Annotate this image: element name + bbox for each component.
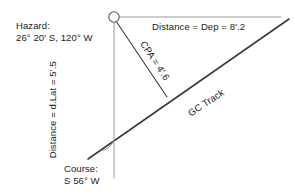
hazard-circle-marker: [109, 12, 119, 22]
hazard-position: 26° 20' S, 120° W: [16, 32, 93, 44]
course-label: Course: S 56° W: [64, 163, 100, 187]
hazard-label: Hazard: 26° 20' S, 120° W: [16, 20, 93, 44]
dlat-label: Distance = d.Lat = 5'.5: [47, 50, 59, 170]
navigation-diagram: Hazard: 26° 20' S, 120° W Distance = Dep…: [0, 0, 295, 196]
hazard-title: Hazard:: [16, 20, 93, 32]
gc-track-line: [88, 19, 289, 159]
departure-label: Distance = Dep = 8'.2: [152, 21, 245, 33]
course-title: Course:: [64, 163, 100, 175]
course-value: S 56° W: [64, 175, 100, 187]
